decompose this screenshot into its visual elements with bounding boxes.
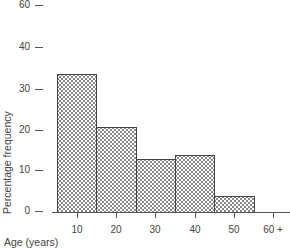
x-axis-label: Age (years): [4, 236, 58, 248]
histogram-bar: [175, 155, 215, 212]
y-tick-mark: [35, 47, 43, 48]
y-tick-mark: [35, 89, 43, 90]
x-tick-label: 30: [135, 225, 175, 235]
histogram-bar: [136, 159, 176, 212]
x-tick-label: 50: [214, 225, 254, 235]
histogram-bar: [96, 127, 137, 212]
x-tick-label: 40: [175, 225, 215, 235]
x-tick-label: 60 +: [253, 225, 290, 235]
y-axis-label: Percentage frequency: [1, 111, 13, 214]
y-tick-mark: [35, 5, 43, 6]
x-tick-label: 20: [96, 225, 136, 235]
x-tick-label: 10: [57, 225, 97, 235]
y-tick-mark: [35, 130, 43, 131]
histogram-bar: [214, 196, 255, 212]
y-tick-label: 60: [0, 0, 30, 10]
y-tick-mark: [35, 211, 43, 212]
histogram-bar: [57, 74, 97, 212]
y-tick-label: 30: [0, 84, 30, 94]
y-tick-label: 40: [0, 42, 30, 52]
histogram-chart: 01020304060 102030405060 + Age (years) P…: [0, 0, 290, 250]
y-tick-mark: [35, 170, 43, 171]
x-axis-line: [52, 212, 290, 213]
